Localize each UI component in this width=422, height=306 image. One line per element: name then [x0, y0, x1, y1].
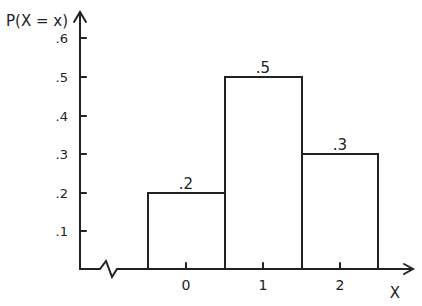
bar-value-label: .3	[333, 136, 347, 154]
y-tick-label: .5	[56, 70, 68, 85]
bar-2	[302, 154, 378, 269]
y-tick-label: .6	[56, 31, 68, 46]
y-tick-label: .1	[56, 224, 68, 239]
x-tick-label: 1	[259, 277, 268, 293]
bar-0	[148, 193, 225, 269]
bar-value-label: .5	[256, 59, 270, 77]
y-tick-label: .2	[56, 186, 68, 201]
x-axis	[80, 261, 412, 277]
y-tick-label: .3	[56, 147, 68, 162]
bar-value-label: .2	[179, 175, 193, 193]
bar-1	[225, 77, 302, 269]
probability-histogram: P(X = x) .1 .2 .3 .4 .5 .6 0 1 2 X .2 .5…	[0, 0, 422, 306]
x-tick-label: 2	[336, 277, 345, 293]
x-tick-label: 0	[182, 277, 191, 293]
y-axis-label: P(X = x)	[6, 12, 68, 30]
x-axis-label: X	[390, 284, 400, 302]
y-tick-label: .4	[56, 109, 68, 124]
